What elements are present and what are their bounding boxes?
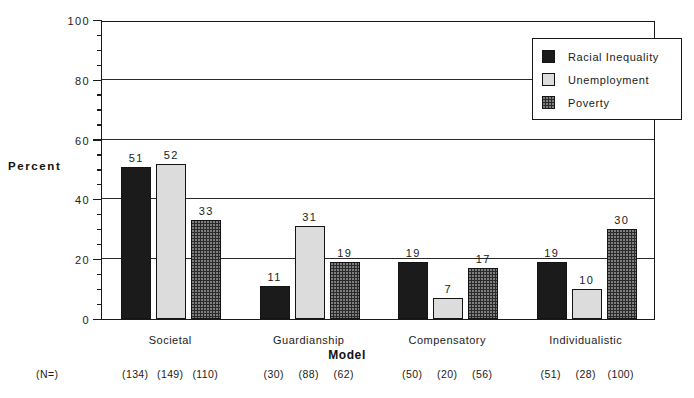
chart-legend: Racial InequalityUnemploymentPoverty <box>532 38 682 120</box>
y-axis-tick-label: 100 <box>46 15 90 27</box>
x-axis-category-label: Compensatory <box>408 334 486 346</box>
sample-size-value: (56) <box>472 368 492 380</box>
sample-size-value: (110) <box>192 368 218 380</box>
legend-swatch-icon <box>542 50 555 63</box>
sample-size-value: (30) <box>264 368 284 380</box>
sample-size-value: (50) <box>402 368 422 380</box>
bar-chart: Percent 020406080100 5152331131191971719… <box>0 0 694 398</box>
legend-item-label: Unemployment <box>568 74 649 86</box>
legend-item[interactable]: Racial Inequality <box>542 45 681 68</box>
legend-item[interactable]: Poverty <box>542 91 681 114</box>
sample-size-value: (51) <box>541 368 561 380</box>
bar-value-label: 19 <box>544 247 559 259</box>
legend-item-label: Poverty <box>568 97 610 109</box>
sample-size-value: (28) <box>576 368 596 380</box>
x-axis-category-label: Individualistic <box>549 334 622 346</box>
bar[interactable] <box>572 289 602 319</box>
bar[interactable] <box>537 262 567 319</box>
sample-size-value: (100) <box>607 368 634 380</box>
sample-size-row-label: (N=) <box>36 368 58 380</box>
legend-item-label: Racial Inequality <box>568 51 659 63</box>
legend-swatch-icon <box>542 73 555 86</box>
sample-size-value: (149) <box>157 368 184 380</box>
y-axis-tick-label: 40 <box>46 194 90 206</box>
y-axis-tick-label: 20 <box>46 254 90 266</box>
x-axis-title: Model <box>0 348 694 362</box>
x-axis-category-label: Guardianship <box>273 334 344 346</box>
bar[interactable] <box>607 229 637 319</box>
sample-size-value: (134) <box>122 368 149 380</box>
x-axis-category-label: Societal <box>149 334 192 346</box>
y-axis-tick-label: 0 <box>46 314 90 326</box>
y-axis-tick-label: 80 <box>46 75 90 87</box>
bar-value-label: 10 <box>579 274 594 286</box>
sample-size-value: (62) <box>334 368 354 380</box>
legend-item[interactable]: Unemployment <box>542 68 681 91</box>
sample-size-value: (88) <box>299 368 319 380</box>
legend-swatch-icon <box>542 96 555 109</box>
bar-value-label: 30 <box>614 214 629 226</box>
y-axis-tick-label: 60 <box>46 135 90 147</box>
y-axis-tick-labels: 020406080100 <box>38 0 90 398</box>
sample-size-value: (20) <box>437 368 457 380</box>
